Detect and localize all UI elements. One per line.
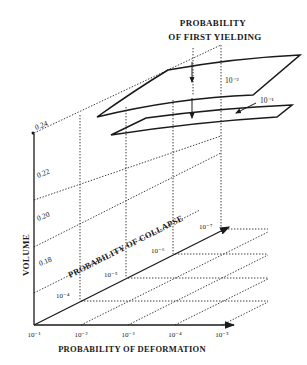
volume-tick: 0.18 — [37, 254, 53, 267]
collapse-tick: 10⁻⁵ — [104, 271, 118, 279]
volume-tick: 0.24 — [33, 118, 49, 131]
volume-tick: 0.22 — [35, 166, 51, 179]
deformation-axis-label: PROBABILITY OF DEFORMATION — [58, 344, 206, 354]
collapse-axis-label: PROBABILITY OF COLLAPSE — [66, 213, 184, 280]
deformation-tick: 10⁻⁴ — [168, 331, 182, 339]
surface-upper-label: 10⁻² — [225, 76, 240, 85]
volume-tick: 0.20 — [35, 209, 51, 222]
title-line1: PROBABILITY — [180, 18, 247, 28]
collapse-tick: 10⁻⁴ — [56, 292, 70, 300]
collapse-tick: 10⁻⁶ — [151, 247, 165, 255]
deformation-tick: 10⁻¹ — [27, 331, 40, 339]
deformation-tick: 10⁻² — [74, 331, 87, 339]
volume-probability-diagram: PROBABILITY OF FIRST YIELDING 10⁻² 10⁻¹ … — [0, 0, 307, 365]
surface-lower — [111, 105, 292, 135]
surface-lower-label: 10⁻¹ — [260, 96, 274, 105]
collapse-tick: 10⁻⁷ — [199, 223, 213, 231]
deformation-tick: 10⁻⁵ — [215, 331, 229, 339]
surface-upper — [97, 55, 300, 117]
volume-axis-label: VOLUME — [21, 234, 31, 276]
volume-grid — [34, 45, 221, 301]
deformation-tick: 10⁻³ — [121, 331, 134, 339]
title-line2: OF FIRST YIELDING — [168, 32, 261, 42]
